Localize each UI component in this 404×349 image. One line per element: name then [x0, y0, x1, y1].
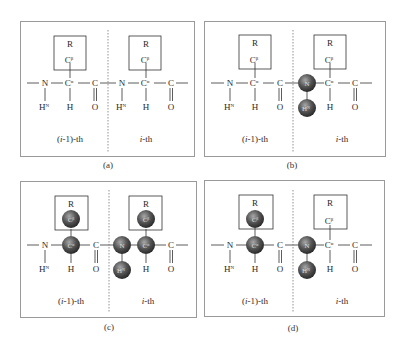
- svg-text:H: H: [67, 102, 74, 112]
- svg-text:N: N: [227, 240, 234, 250]
- svg-text:O: O: [352, 264, 359, 274]
- svg-text:N: N: [119, 242, 124, 250]
- svg-text:HN: HN: [116, 102, 127, 112]
- svg-text:O: O: [93, 264, 100, 274]
- svg-text:R: R: [327, 38, 333, 48]
- svg-text:R: R: [143, 39, 149, 49]
- svg-text:C: C: [93, 240, 99, 250]
- svg-text:N: N: [304, 242, 309, 250]
- svg-text:C: C: [168, 240, 174, 250]
- svg-text:C: C: [352, 240, 358, 250]
- svg-text:O: O: [277, 264, 284, 274]
- svg-text:HN: HN: [39, 264, 50, 274]
- svg-text:H: H: [143, 264, 150, 274]
- svg-text:Cβ: Cβ: [65, 55, 74, 65]
- svg-text:O: O: [352, 102, 359, 112]
- panel-caption: (a): [88, 160, 128, 170]
- panel-a: RR CβCβ NCαC NCαC HNHO HNHO (i-1)-th i-t…: [0, 0, 202, 174]
- svg-text:Cα: Cα: [250, 78, 259, 88]
- svg-text:HN: HN: [224, 264, 235, 274]
- svg-text:R: R: [252, 38, 258, 48]
- svg-text:Cβ: Cβ: [250, 55, 259, 65]
- svg-text:O: O: [92, 102, 99, 112]
- svg-text:HN: HN: [39, 102, 50, 112]
- svg-text:N: N: [304, 80, 309, 88]
- svg-text:(i-1)-th: (i-1)-th: [242, 296, 269, 306]
- svg-text:C: C: [352, 78, 358, 88]
- svg-text:H: H: [327, 102, 334, 112]
- svg-text:H: H: [143, 102, 150, 112]
- svg-text:(i-1)-th: (i-1)-th: [242, 134, 269, 144]
- svg-text:Cβ: Cβ: [325, 55, 334, 65]
- panel-c: RR Cβ Cβ N Cα C N Cα C HNHO HN HO (i-1)-…: [0, 174, 202, 349]
- panel-d: RR Cβ Cβ N Cα C N CαC HNHO HN HO (i-1)-t…: [202, 174, 404, 349]
- svg-text:i-th: i-th: [142, 296, 155, 306]
- svg-text:N: N: [42, 78, 49, 88]
- svg-text:Cβ: Cβ: [325, 216, 334, 226]
- svg-text:C: C: [92, 78, 98, 88]
- svg-text:N: N: [227, 78, 234, 88]
- svg-text:C: C: [277, 240, 283, 250]
- svg-text:i-th: i-th: [336, 296, 349, 306]
- svg-text:H: H: [252, 264, 259, 274]
- peptide-diagram-b: RR CβCβ NCαC N CαC HNHO HN HO (i-1)-th i…: [202, 0, 404, 174]
- svg-text:Cα: Cα: [325, 78, 334, 88]
- svg-text:O: O: [277, 102, 284, 112]
- panel-b: RR CβCβ NCαC N CαC HNHO HN HO (i-1)-th i…: [202, 0, 404, 174]
- svg-text:(i-1)-th: (i-1)-th: [58, 296, 85, 306]
- panel-caption: (c): [89, 322, 129, 332]
- svg-text:N: N: [119, 78, 126, 88]
- svg-text:R: R: [327, 198, 333, 208]
- svg-text:R: R: [252, 198, 258, 208]
- panel-caption: (b): [272, 160, 312, 170]
- svg-text:Cα: Cα: [65, 78, 74, 88]
- panel-caption: (d): [273, 323, 313, 333]
- svg-text:Cβ: Cβ: [141, 55, 150, 65]
- svg-text:Cα: Cα: [325, 240, 334, 250]
- svg-text:C: C: [168, 78, 174, 88]
- svg-text:C: C: [277, 78, 283, 88]
- svg-text:H: H: [252, 102, 259, 112]
- left-residue-label: (i-1)-th: [57, 134, 84, 144]
- svg-text:R: R: [68, 199, 74, 209]
- svg-text:N: N: [42, 240, 49, 250]
- svg-text:O: O: [168, 102, 175, 112]
- svg-text:i-th: i-th: [336, 134, 349, 144]
- svg-text:H: H: [327, 264, 334, 274]
- right-residue-label: i-th: [140, 134, 153, 144]
- svg-text:Cα: Cα: [141, 78, 150, 88]
- svg-text:R: R: [67, 39, 73, 49]
- peptide-diagram-a: RR CβCβ NCαC NCαC HNHO HNHO (i-1)-th i-t…: [0, 0, 202, 174]
- svg-text:H: H: [68, 264, 75, 274]
- svg-text:O: O: [168, 264, 175, 274]
- svg-text:HN: HN: [224, 102, 235, 112]
- svg-text:R: R: [143, 199, 149, 209]
